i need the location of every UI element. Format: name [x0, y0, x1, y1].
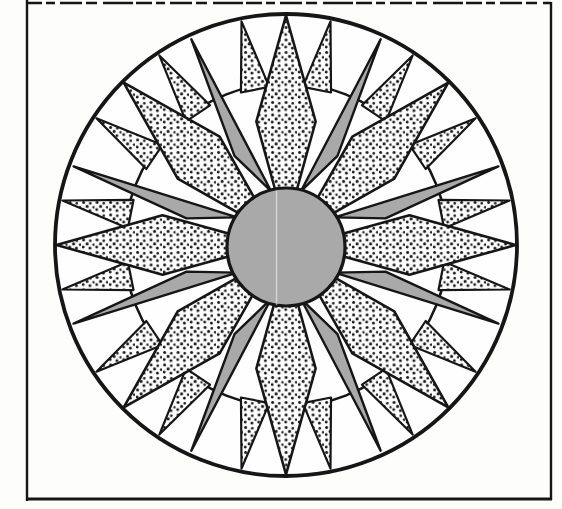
scanned-page	[0, 0, 562, 509]
center-circle	[227, 188, 345, 306]
mariners-compass-figure	[0, 0, 562, 509]
